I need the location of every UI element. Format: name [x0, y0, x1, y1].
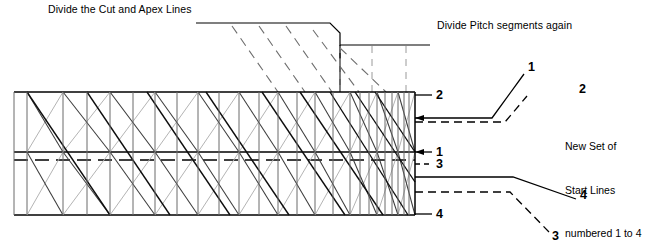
leader-callout-3: 3	[552, 229, 559, 243]
new-set-line-1: New Set of	[565, 139, 641, 154]
leader-callout-1: 1	[528, 60, 535, 74]
edge-callout-2: 2	[436, 88, 443, 102]
band-horizontal-rules	[14, 92, 415, 215]
ascending-faint-diagonals	[27, 92, 415, 215]
cut-apex-annotation: Divide the Cut and Apex Lines	[48, 3, 192, 16]
start-line-arrow-heads	[415, 115, 424, 155]
descending-diagonals	[27, 92, 415, 215]
leader-line-1	[415, 74, 524, 118]
leader-callout-4: 4	[580, 188, 587, 202]
pitch-leader-line	[340, 45, 430, 58]
diagram-root: Divide the Cut and Apex Lines Divide Pit…	[0, 0, 653, 247]
leader-callout-2: 2	[579, 82, 586, 96]
diagram-canvas	[0, 0, 653, 247]
edge-callout-3: 3	[436, 157, 443, 171]
new-set-line-2: Start Lines	[565, 183, 641, 198]
edge-callout-4: 4	[436, 207, 443, 221]
helix-long-diagonals	[27, 92, 415, 215]
leader-line-4	[415, 177, 576, 199]
upper-dashed-verticals	[340, 46, 406, 92]
pitch-annotation: Divide Pitch segments again	[437, 19, 572, 32]
cut-apex-leader-line	[196, 23, 340, 92]
upper-dashed-diagonals	[232, 26, 386, 92]
vertical-division-lines	[14, 92, 409, 215]
new-set-line-3: numbered 1 to 4	[565, 226, 641, 241]
